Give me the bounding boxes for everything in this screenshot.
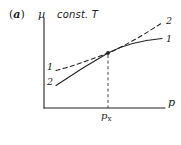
plot-canvas: [0, 0, 181, 145]
y-axis-label: µ: [38, 9, 45, 20]
x-tick-label-px: px: [101, 111, 111, 123]
curve-label-left-dashed: 1: [47, 62, 53, 72]
curve-solid-phase-2: [56, 39, 162, 86]
panel-letter: a: [13, 8, 20, 21]
x-axis-label: p: [168, 97, 175, 108]
curve-dashed-phase-1: [56, 24, 161, 71]
intersection-point-dot: [106, 51, 110, 55]
curve-label-right-solid: 1: [166, 34, 172, 44]
figure-panel-a: (a) µ const. T p px 1 2 2 1: [0, 0, 181, 145]
px-subscript: x: [107, 115, 111, 123]
curve-label-left-solid: 2: [47, 77, 53, 87]
curve-label-right-dashed: 2: [166, 16, 172, 26]
condition-label: const. T: [57, 10, 98, 20]
panel-label: (a): [9, 9, 25, 20]
